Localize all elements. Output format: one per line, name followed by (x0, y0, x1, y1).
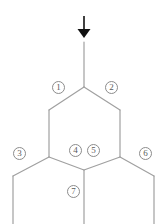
substituent-right (120, 157, 154, 224)
diagram-canvas: 1 2 3 4 5 6 7 (0, 0, 168, 224)
arrow-head (78, 29, 91, 38)
bond-right-branch-diagonal (120, 157, 154, 176)
label-marker-2: 2 (105, 81, 118, 94)
label-marker-3: 3 (13, 147, 26, 160)
hexagon-ring (49, 87, 120, 170)
substituent-left (13, 157, 49, 224)
label-marker-4: 4 (69, 144, 82, 157)
label-marker-7: 7 (67, 185, 80, 198)
skeleton-drawing (0, 0, 168, 224)
down-arrow-icon (78, 16, 91, 38)
label-marker-5: 5 (87, 144, 100, 157)
bond-lower-left (49, 157, 84, 170)
label-marker-1: 1 (52, 81, 65, 94)
label-marker-6: 6 (139, 147, 152, 160)
bond-lower-right (84, 157, 120, 170)
